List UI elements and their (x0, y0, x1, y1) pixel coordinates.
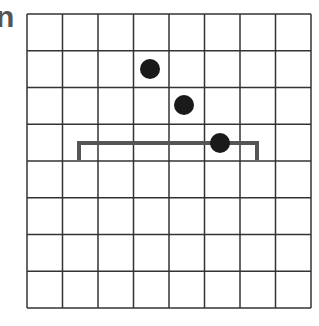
grid-lines (27, 14, 311, 308)
dot (210, 133, 230, 153)
dots-group (140, 59, 230, 153)
grid-diagram (0, 0, 319, 326)
dot (174, 95, 194, 115)
bracket-shape (79, 143, 257, 160)
dot (140, 59, 160, 79)
